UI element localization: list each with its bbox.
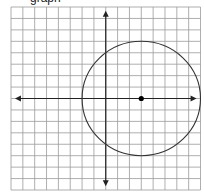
center-point bbox=[139, 96, 144, 101]
axes bbox=[15, 11, 197, 187]
y-axis-up-arrow-icon bbox=[103, 11, 109, 17]
coordinate-plane bbox=[0, 0, 204, 194]
x-axis-right-arrow-icon bbox=[191, 96, 197, 102]
y-axis-down-arrow-icon bbox=[103, 180, 109, 186]
x-axis-left-arrow-icon bbox=[15, 96, 21, 102]
